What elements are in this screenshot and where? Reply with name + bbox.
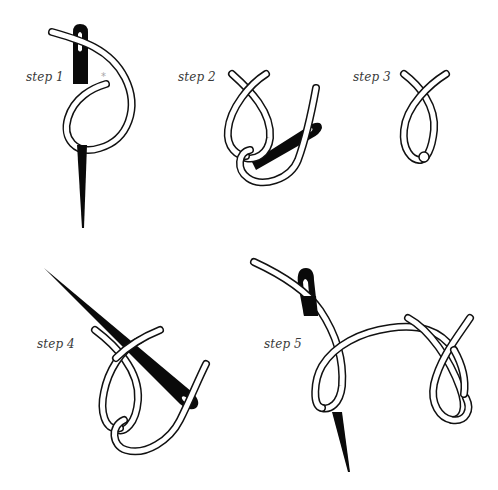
needle-point-icon bbox=[332, 412, 350, 472]
knot-diagram: step 1 * step 2 bbox=[0, 0, 498, 490]
step-5-illustration bbox=[0, 0, 498, 490]
thread-icon bbox=[254, 262, 470, 420]
